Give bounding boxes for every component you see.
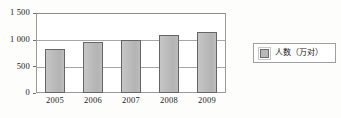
y-tick-label-1500: 1 500 [10,8,30,17]
x-tick-label-2008: 2008 [150,95,188,105]
x-tick-label-2007: 2007 [112,95,150,105]
bar-slot-2005 [36,13,74,93]
bar-slot-2007 [112,13,150,93]
bar-slot-2008 [150,13,188,93]
x-axis: 2005 2006 2007 2008 2009 [36,95,226,109]
bar-slot-2009 [188,13,226,93]
legend-label: 人数（万对） [275,48,323,58]
y-tick-mark-0 [33,93,36,94]
bar-slot-2006 [74,13,112,93]
bar-chart-figure: 1 500 1 000 500 0 2005 2006 20 [0,0,341,118]
bar-2006[interactable] [83,42,103,93]
x-tick-label-2009: 2009 [188,95,226,105]
legend: 人数（万对） [253,43,336,63]
bar-2005[interactable] [45,49,65,93]
y-tick-label-1000: 1 000 [10,35,30,44]
y-tick-label-0: 0 [26,88,30,97]
bar-2008[interactable] [159,35,179,93]
bar-2009[interactable] [197,32,217,93]
y-tick-label-500: 500 [17,62,30,71]
y-axis: 1 500 1 000 500 0 [0,0,34,118]
x-tick-label-2005: 2005 [36,95,74,105]
bars-layer [36,13,226,93]
bar-2007[interactable] [121,40,141,93]
square-swatch-icon [260,49,269,58]
x-tick-label-2006: 2006 [74,95,112,105]
